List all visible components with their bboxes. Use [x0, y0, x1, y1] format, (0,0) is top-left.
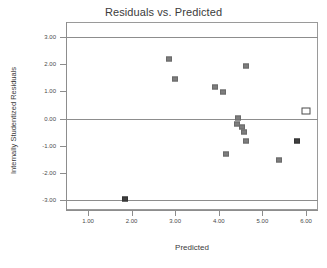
- y-tick-label: 1.00: [44, 88, 56, 94]
- data-point-marker: [172, 76, 178, 81]
- data-point-marker: [235, 116, 241, 121]
- x-tick-mark: [306, 210, 307, 216]
- y-tick-label: -2.00: [42, 170, 56, 176]
- chart-title: Residuals vs. Predicted: [0, 6, 327, 18]
- y-tick-mark: [60, 91, 67, 92]
- data-point-marker: [243, 138, 249, 143]
- y-tick-label: -3.00: [42, 197, 56, 203]
- x-tick-label: 6.00: [300, 218, 312, 224]
- plot-area: [66, 22, 318, 210]
- data-point-marker: [166, 56, 172, 61]
- x-axis-title: Predicted: [66, 243, 318, 252]
- y-axis-title: Internally Studentized Residuals: [9, 46, 18, 196]
- y-tick-label: 0.00: [44, 116, 56, 122]
- x-tick-mark: [175, 210, 176, 216]
- x-tick-label: 1.00: [82, 218, 94, 224]
- data-point-marker: [294, 138, 300, 143]
- chart-container: Residuals vs. Predicted 3.002.001.000.00…: [0, 0, 327, 268]
- reference-line-lower: [66, 200, 318, 201]
- data-point-marker: [241, 130, 247, 135]
- data-point-marker: [301, 107, 310, 114]
- data-point-marker: [212, 84, 218, 89]
- data-point-marker: [223, 151, 229, 156]
- x-tick-label: 5.00: [257, 218, 269, 224]
- x-tick-label: 4.00: [213, 218, 225, 224]
- y-tick-mark: [60, 37, 67, 38]
- y-tick-label: -1.00: [42, 143, 56, 149]
- y-tick-mark: [60, 146, 67, 147]
- y-axis-line: [66, 22, 67, 210]
- y-tick-label: 2.00: [44, 61, 56, 67]
- y-tick-mark: [60, 119, 67, 120]
- data-point-marker: [122, 196, 128, 201]
- x-axis-line: [66, 210, 318, 211]
- x-tick-mark: [88, 210, 89, 216]
- x-tick-mark: [219, 210, 220, 216]
- y-tick-mark: [60, 200, 67, 201]
- reference-line-zero: [66, 119, 318, 120]
- y-tick-label: 3.00: [44, 34, 56, 40]
- x-tick-mark: [132, 210, 133, 216]
- x-tick-label: 2.00: [126, 218, 138, 224]
- data-point-marker: [220, 89, 226, 94]
- reference-line-upper: [66, 37, 318, 38]
- y-tick-mark: [60, 64, 67, 65]
- x-tick-mark: [262, 210, 263, 216]
- data-point-marker: [243, 63, 249, 68]
- data-point-marker: [276, 158, 282, 163]
- x-tick-label: 3.00: [169, 218, 181, 224]
- y-tick-mark: [60, 173, 67, 174]
